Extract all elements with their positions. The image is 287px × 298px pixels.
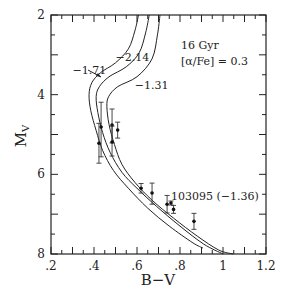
x-tick-label: .2 [45, 259, 56, 273]
alpha-fe-annotation: [α/Fe] = 0.3 [181, 55, 248, 68]
x-axis-title: B−V [141, 271, 177, 289]
data-point [110, 140, 114, 144]
data-point [139, 186, 143, 190]
tick-labels: .2.4.6.811.22468 [37, 8, 275, 273]
y-axis-title: MV [12, 124, 31, 147]
data-point [116, 128, 120, 132]
x-tick-label: 1 [219, 259, 227, 273]
x-tick-label: 1.2 [256, 259, 275, 273]
data-point [192, 220, 196, 224]
data-point [165, 202, 169, 206]
x-tick-label: .8 [174, 259, 185, 273]
data-point [172, 208, 176, 212]
data-point [97, 141, 101, 145]
data-point [99, 125, 103, 129]
age-annotation: 16 Gyr [181, 39, 219, 52]
data-point [150, 191, 154, 195]
x-tick-label: .4 [88, 259, 100, 273]
hr-diagram-chart: .2.4.6.811.22468 −2.14−1.71−1.31 B−V MV … [0, 0, 287, 298]
y-tick-label: 8 [37, 247, 45, 261]
isochrone-label: −2.14 [116, 51, 150, 64]
data-points [96, 102, 196, 229]
y-tick-label: 4 [37, 88, 45, 102]
y-tick-label: 6 [37, 167, 45, 181]
y-tick-label: 2 [37, 8, 45, 22]
star-103095-label: 103095 (−1.36) [171, 190, 259, 203]
isochrone-label: −1.31 [135, 79, 169, 92]
